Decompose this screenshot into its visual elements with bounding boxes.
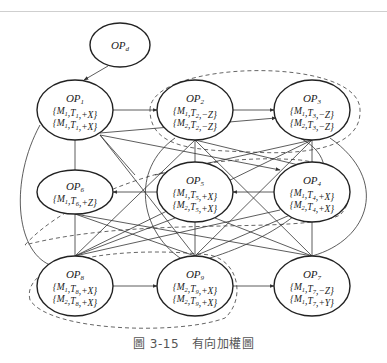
- figure-caption: 圖 3-15 有向加權圖: [0, 334, 387, 351]
- node-op1: OP1{M1,T1,+X}{M1,T1,+X}: [37, 80, 113, 140]
- node-op9: OP9{M2,T9,+X}{M2,T9,+X}: [157, 256, 233, 316]
- node-op2: OP2{M1,T2,−Z}{M2,T2,−Z}: [157, 80, 233, 140]
- node-op5: OP5{M1,T5,+X}{M2,T5,+X}: [157, 162, 233, 222]
- node-ellipse: [37, 170, 113, 214]
- node-opd: OPd: [90, 23, 150, 67]
- node-op7: OP7{M1,T7,−Z}{M1,T7,+Y}: [274, 256, 350, 316]
- edge-opd-op1: [84, 66, 108, 80]
- directed-weighted-graph: OPdOP1{M1,T1,+X}{M1,T1,+X}OP2{M1,T2,−Z}{…: [0, 0, 387, 330]
- node-op8: OP8{M1,T8,+X}{M2,T8,+X}: [37, 256, 113, 316]
- node-op6: OP6{M1,T6,+Z}: [37, 170, 113, 214]
- node-op3: OP3{M1,T3,−Z}{M2,T3,−Z}: [274, 80, 350, 140]
- edge-op6-op9: [75, 214, 195, 256]
- node-op4: OP4{M1,T4,+X}{M2,T4,+X}: [274, 162, 350, 222]
- nodes: OPdOP1{M1,T1,+X}{M1,T1,+X}OP2{M1,T2,−Z}{…: [37, 23, 350, 316]
